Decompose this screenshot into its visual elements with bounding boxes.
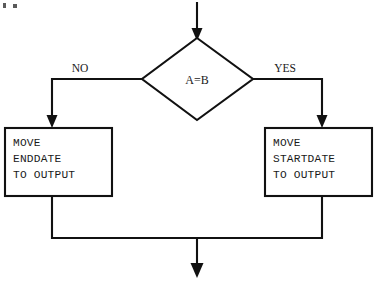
process-left-line1: MOVE [13, 137, 41, 149]
merge-connector [52, 196, 322, 238]
process-right-line3: TO OUTPUT [273, 169, 335, 181]
no-label: NO [72, 62, 89, 74]
process-right-line1: MOVE [273, 137, 301, 149]
scan-speck-icon [13, 4, 17, 8]
flowchart-canvas: A=B NO YES MOVE ENDDATE TO OUTPUT MOVE S… [0, 0, 377, 282]
scan-speck-icon [3, 3, 6, 8]
process-left-line2: ENDDATE [13, 153, 61, 165]
exit-arrowhead-icon [191, 263, 204, 278]
flowchart-svg: A=B NO YES MOVE ENDDATE TO OUTPUT MOVE S… [0, 0, 377, 282]
yes-branch-connector [253, 79, 322, 120]
process-left-line3: TO OUTPUT [13, 169, 75, 181]
yes-branch-arrowhead-icon [317, 115, 328, 128]
no-branch-arrowhead-icon [47, 115, 58, 128]
process-right-line2: STARTDATE [273, 153, 335, 165]
yes-label: YES [274, 62, 296, 74]
no-branch-connector [52, 79, 142, 120]
decision-label: A=B [185, 73, 208, 87]
